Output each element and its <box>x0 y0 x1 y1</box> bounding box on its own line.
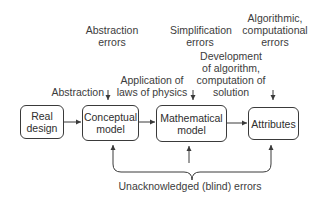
application-process-label: Application of laws of physics <box>112 74 192 98</box>
attributes-label: Attributes <box>251 118 295 130</box>
abstraction-process-label: Abstraction <box>48 86 104 98</box>
mathematical-model-label: Mathematical model <box>160 112 222 136</box>
abstraction-errors-label: Abstraction errors <box>84 24 140 48</box>
attributes-box: Attributes <box>248 107 299 140</box>
conceptual-model-label: Conceptual model <box>84 111 137 135</box>
conceptual-model-box: Conceptual model <box>82 105 139 141</box>
blind-errors-label: Unacknowledged (blind) errors <box>110 180 270 192</box>
real-design-label: Real design <box>27 110 58 134</box>
real-design-box: Real design <box>20 105 64 139</box>
development-process-label: Development of algorithm, computation of… <box>196 50 266 98</box>
algorithmic-errors-label: Algorithmic, computational errors <box>240 12 310 48</box>
simplification-errors-label: Simplification errors <box>170 24 230 48</box>
mathematical-model-box: Mathematical model <box>156 105 227 142</box>
